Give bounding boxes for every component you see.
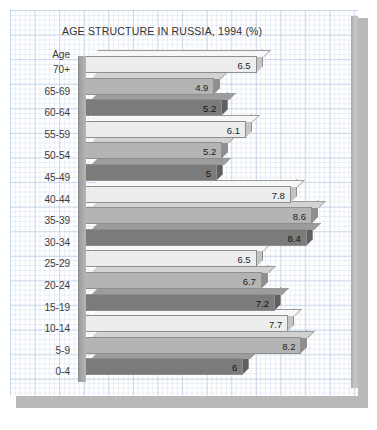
axis-tick-label: 65-69: [6, 86, 70, 97]
bar: 5.2: [85, 99, 222, 116]
bar: 6.5: [85, 250, 257, 267]
bar-front-face: 8.4: [85, 229, 307, 246]
bar-value-label: 6: [232, 361, 237, 374]
bar-value-label: 4.9: [195, 81, 208, 94]
bar-stack-left-face: [78, 56, 86, 382]
axis-tick-label: 35-39: [6, 215, 70, 226]
bar: 6: [85, 358, 243, 375]
chart-page: AGE STRUCTURE IN RUSSIA, 1994 (%) Age70+…: [0, 0, 377, 430]
bar-front-face: 5.2: [85, 142, 222, 159]
bar-front-face: 6.5: [85, 56, 257, 73]
bar: 5.2: [85, 142, 222, 159]
axis-tick-label: 30-34: [6, 237, 70, 248]
bar: 8.6: [85, 207, 312, 224]
bar-value-label: 8.6: [293, 210, 306, 223]
bar-front-face: 8.2: [85, 337, 301, 354]
bar-value-label: 6.5: [237, 59, 250, 72]
axis-tick-label: 20-24: [6, 280, 70, 291]
bar: 5: [85, 164, 217, 181]
bar-front-face: 7.7: [85, 315, 288, 332]
axis-tick-label: 50-54: [6, 150, 70, 161]
bar-value-label: 6.5: [237, 253, 250, 266]
bar: 7.2: [85, 294, 275, 311]
bar: 6.1: [85, 121, 246, 138]
axis-tick-label: 45-49: [6, 172, 70, 183]
axis-tick-label: 10-14: [6, 323, 70, 334]
bar-value-label: 8.2: [282, 340, 295, 353]
bar-value-label: 5.2: [203, 102, 216, 115]
bar-chart: Age70+6.565-694.960-645.255-596.150-545.…: [0, 0, 377, 430]
axis-tick-label: 70+: [6, 64, 70, 75]
bar: 4.9: [85, 78, 214, 95]
bar-value-label: 7.2: [256, 297, 269, 310]
bar: 7.8: [85, 186, 291, 203]
bar: 8.4: [85, 229, 307, 246]
bar-front-face: 7.8: [85, 186, 291, 203]
bar: 7.7: [85, 315, 288, 332]
bar-value-label: 8.4: [288, 232, 301, 245]
bar-front-face: 6.7: [85, 272, 262, 289]
bar-value-label: 6.1: [227, 124, 240, 137]
bar-front-face: 6.1: [85, 121, 246, 138]
bar-front-face: 5.2: [85, 99, 222, 116]
bar: 8.2: [85, 337, 301, 354]
bar-front-face: 5: [85, 164, 217, 181]
bar-value-label: 6.7: [243, 275, 256, 288]
bar-value-label: 7.7: [269, 318, 282, 331]
bar-value-label: 5: [206, 167, 211, 180]
bar: 6.5: [85, 56, 257, 73]
axis-tick-label: 15-19: [6, 302, 70, 313]
bar-front-face: 7.2: [85, 294, 275, 311]
bar-front-face: 6: [85, 358, 243, 375]
axis-tick-label: 0-4: [6, 366, 70, 377]
bar-value-label: 5.2: [203, 145, 216, 158]
bar: 6.7: [85, 272, 262, 289]
axis-tick-label: 40-44: [6, 194, 70, 205]
bar-front-face: 4.9: [85, 78, 214, 95]
axis-header-age: Age: [6, 49, 70, 60]
axis-tick-label: 5-9: [6, 345, 70, 356]
bar-front-face: 8.6: [85, 207, 312, 224]
axis-tick-label: 60-64: [6, 107, 70, 118]
bar-front-face: 6.5: [85, 250, 257, 267]
axis-tick-label: 55-59: [6, 129, 70, 140]
axis-tick-label: 25-29: [6, 258, 70, 269]
bar-value-label: 7.8: [272, 189, 285, 202]
